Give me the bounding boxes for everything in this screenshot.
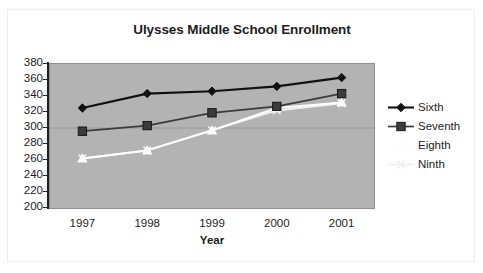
legend-marker-square-icon: [386, 117, 416, 136]
data-point-diamond: [397, 103, 405, 111]
y-axis-tick-mark: [43, 207, 48, 208]
legend-item-sixth[interactable]: Sixth: [386, 98, 474, 117]
data-point-diamond: [78, 104, 86, 112]
y-axis-tick-mark: [43, 191, 48, 192]
data-point-diamond: [208, 87, 216, 95]
legend-label: Seventh: [418, 120, 460, 132]
y-axis-tick-mark: [43, 143, 48, 144]
data-point-square: [337, 89, 345, 97]
legend-marker-triangle-icon: [386, 136, 416, 155]
data-point-diamond: [273, 82, 281, 90]
x-axis-title: Year: [49, 234, 375, 246]
y-axis-tick-mark: [43, 79, 48, 80]
y-axis-tick-label: 260: [24, 153, 43, 165]
data-point-diamond: [143, 89, 151, 97]
y-axis-tick-label: 380: [24, 57, 43, 69]
legend-marker-diamond-icon: [386, 98, 416, 117]
y-axis-tick-mark: [43, 111, 48, 112]
x-axis-tick-label: 1997: [70, 217, 96, 229]
y-axis-tick-label: 300: [24, 121, 43, 133]
data-point-square: [273, 102, 281, 110]
legend-item-eighth[interactable]: Eighth: [386, 136, 474, 155]
y-axis-tick-label: 320: [24, 105, 43, 117]
y-axis-tick-mark: [43, 95, 48, 96]
data-point-diamond: [337, 73, 345, 81]
legend-item-ninth[interactable]: Ninth: [386, 155, 474, 174]
x-axis-tick-label: 2000: [264, 217, 290, 229]
y-axis-tick-label: 200: [24, 201, 43, 213]
x-axis-tick-label: 1998: [134, 217, 160, 229]
legend-label: Sixth: [418, 101, 444, 113]
y-axis-tick-mark: [43, 159, 48, 160]
chart-title: Ulysses Middle School Enrollment: [8, 22, 476, 37]
data-point-square: [397, 122, 405, 130]
data-point-square: [78, 127, 86, 135]
legend-label: Eighth: [418, 139, 451, 151]
y-axis-tick-label: 340: [24, 89, 43, 101]
y-axis-tick-label: 240: [24, 169, 43, 181]
legend-label: Ninth: [418, 158, 445, 170]
y-axis-tick-mark: [43, 63, 48, 64]
data-point-square: [143, 121, 151, 129]
plot-series-svg: [50, 64, 374, 208]
x-axis-tick-label: 2001: [329, 217, 355, 229]
y-axis-tick-mark: [43, 175, 48, 176]
legend-marker-x-icon: [386, 155, 416, 174]
y-axis-tick-label: 280: [24, 137, 43, 149]
data-point-square: [208, 109, 216, 117]
chart-legend: SixthSeventhEighthNinth: [386, 98, 474, 176]
y-axis-tick-label: 360: [24, 73, 43, 85]
legend-item-seventh[interactable]: Seventh: [386, 117, 474, 136]
x-axis-tick-labels: 19971998199920002001: [49, 213, 375, 231]
plot-area: [49, 63, 375, 209]
y-axis-tick-label: 220: [24, 185, 43, 197]
y-axis-tick-labels: 380360340320300280260240220200: [8, 63, 46, 207]
x-axis-tick-label: 1999: [199, 217, 225, 229]
y-axis-tick-mark: [43, 127, 48, 128]
chart-container: Ulysses Middle School Enrollment 3803603…: [7, 9, 475, 262]
